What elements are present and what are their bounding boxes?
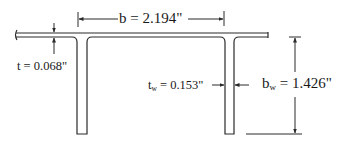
- label-tw-value: 0.153": [170, 78, 203, 92]
- left-web: [77, 42, 87, 134]
- label-bw: bw = 1.426": [262, 76, 332, 92]
- t-section-diagram: b = 2.194" t = 0.068" tw = 0.153" bw = 1…: [0, 0, 350, 141]
- label-bw-value: 1.426": [292, 75, 332, 91]
- label-bw-subscript: w: [270, 82, 277, 92]
- label-bw-symbol: b: [262, 75, 270, 91]
- label-tw-subscript: w: [151, 84, 156, 93]
- label-bw-equals: =: [280, 75, 288, 91]
- label-tw: tw = 0.153": [148, 79, 203, 92]
- right-web: [225, 42, 234, 134]
- flange: [16, 30, 269, 42]
- label-b: b = 2.194": [119, 11, 182, 26]
- label-t: t = 0.068": [17, 60, 67, 73]
- label-tw-equals: =: [160, 78, 167, 92]
